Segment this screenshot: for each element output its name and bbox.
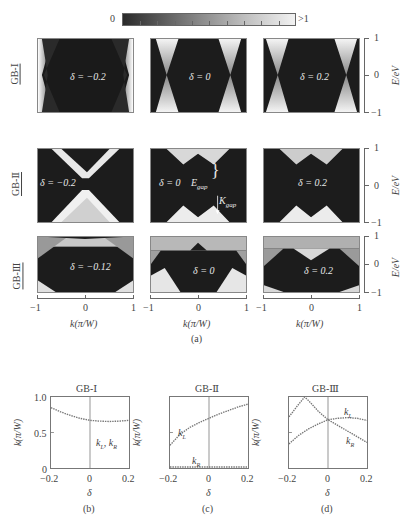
delta-label: δ = 0 [159, 177, 180, 188]
y-axis-label-b: k(π/W) [12, 419, 23, 446]
y-tick: 1 [374, 142, 379, 153]
delta-label: δ = −0.12 [70, 261, 111, 272]
y-tick: −1 [371, 107, 382, 118]
y-tick: 0 [374, 180, 379, 191]
x-tick: 0 [309, 302, 314, 313]
figure-caption-a: (a) [191, 333, 202, 344]
y-tick: −1 [371, 287, 382, 298]
band-panel-gb2-zero: δ = 0 Egap } Kgap [150, 148, 247, 223]
plot-d: kL kR [288, 396, 368, 469]
figure-caption-c: (c) [202, 503, 213, 514]
delta-label: δ = 0.2 [298, 177, 327, 188]
y-axis-label-c: k(π/W) [131, 419, 142, 446]
y-axis-row3 [364, 236, 371, 293]
delta-label: δ = −0.2 [40, 177, 76, 188]
y-axis-label-d: k(π/W) [250, 419, 261, 446]
x-axis-label: k(π/W) [183, 318, 210, 329]
brace-icon: } [211, 161, 220, 179]
x-tick: 0.2 [241, 473, 254, 484]
x-axis-label: k(π/W) [296, 318, 323, 329]
x-tick: −1 [30, 302, 41, 313]
band-panel-gb1-neg: δ = −0.2 [37, 38, 134, 113]
delta-label: δ = 0.2 [300, 71, 329, 82]
y-tick: 0 [374, 69, 379, 80]
y-tick: 1 [374, 230, 379, 241]
y-tick: 1 [374, 32, 379, 43]
x-axis-label-b: δ [87, 487, 92, 498]
kgap-annotation: Kgap [219, 195, 236, 209]
x-axis-label: k(π/W) [70, 318, 97, 329]
label-kR: kR [192, 455, 200, 468]
x-tick: 1 [357, 302, 362, 313]
figure-caption-d: (d) [321, 503, 333, 514]
y-axis-label: E/eV [390, 258, 401, 277]
colorbar [122, 13, 296, 26]
y-axis-label: E/eV [390, 176, 401, 195]
delta-label: δ = 0 [193, 265, 214, 276]
y-axis-label: E/eV [390, 66, 401, 85]
egap-annotation: Egap [191, 177, 208, 191]
x-tick: 1 [131, 302, 136, 313]
delta-label: δ = −0.2 [70, 71, 106, 82]
x-tick: −0.2 [278, 473, 296, 484]
row-label-gb1: GB-Ⅰ [9, 63, 21, 84]
label-kL: kL [344, 406, 352, 419]
y-tick: 1.0 [34, 392, 47, 403]
band-panel-gb2-pos: δ = 0.2 [263, 148, 360, 223]
label-kR: kR [346, 435, 354, 448]
band-panel-gb3-zero: δ = 0 [150, 236, 247, 293]
y-axis-row2 [364, 148, 371, 223]
row-label-gb3: GB-Ⅲ [11, 263, 23, 290]
plot-title-c: GB-Ⅱ [195, 383, 219, 394]
colorbar-min-label: 0 [110, 13, 115, 24]
y-axis-row1 [364, 38, 371, 113]
x-tick: 0 [325, 473, 330, 484]
x-tick: 0 [206, 473, 211, 484]
plot-title-d: GB-Ⅲ [312, 383, 339, 394]
label-kL-kR: kL, kR [96, 437, 117, 450]
x-tick: 0.2 [122, 473, 135, 484]
y-tick: 0 [374, 258, 379, 269]
colorbar-max-label: >1 [298, 13, 309, 24]
x-tick: −1 [143, 302, 154, 313]
x-axis-label-c: δ [206, 487, 211, 498]
y-tick: −1 [371, 217, 382, 228]
row-label-gb2: GB-Ⅱ [10, 172, 22, 196]
band-panel-gb3-pos: δ = 0.2 [263, 236, 360, 293]
x-axis-label-d: δ [325, 487, 330, 498]
x-tick: 0 [196, 302, 201, 313]
band-panel-gb1-zero: δ = 0 [150, 38, 247, 113]
plot-c: kL kR [169, 396, 249, 469]
y-tick: 0.5 [34, 428, 47, 439]
plot-b: kL, kR [50, 396, 130, 469]
x-tick: 0 [87, 473, 92, 484]
band-panel-gb2-neg: δ = −0.2 [37, 148, 134, 223]
x-tick: −0.2 [40, 473, 58, 484]
plot-title-b: GB-Ⅰ [76, 383, 97, 394]
x-tick: 0.2 [360, 473, 373, 484]
band-panel-gb1-pos: δ = 0.2 [263, 38, 360, 113]
x-tick: 1 [244, 302, 249, 313]
label-kL: kL [178, 427, 186, 440]
figure-caption-b: (b) [83, 503, 95, 514]
x-tick: −1 [256, 302, 267, 313]
band-panel-gb3-neg: δ = −0.12 [37, 236, 134, 293]
x-tick: −0.2 [159, 473, 177, 484]
delta-label: δ = 0.2 [304, 265, 333, 276]
delta-label: δ = 0 [189, 71, 210, 82]
x-tick: 0 [83, 302, 88, 313]
